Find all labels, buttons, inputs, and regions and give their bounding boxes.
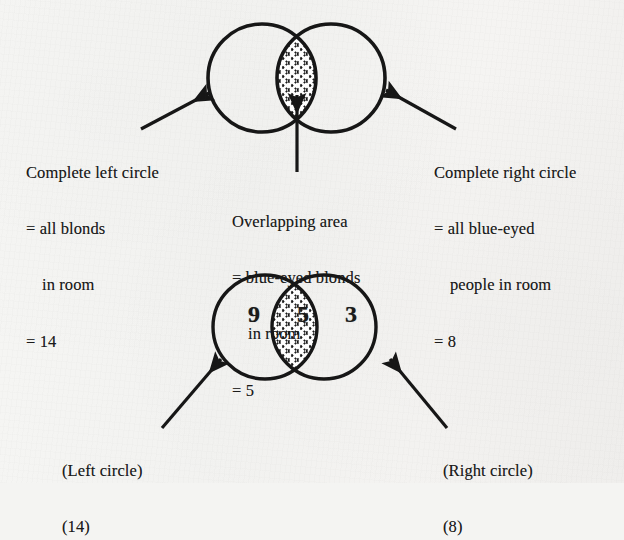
left-caption-line-3: in room <box>26 276 159 295</box>
bottom-left-circle-caption: (Left circle) (14) <box>62 424 143 540</box>
right-caption-line-3: people in room <box>434 276 576 295</box>
overlap-caption-line-4: = 5 <box>232 382 360 401</box>
left-caption-line-4: = 14 <box>26 333 159 352</box>
bottom-left-caption-line-1: (Left circle) <box>62 462 143 481</box>
bottom-left-only-value: 9 <box>248 301 260 328</box>
right-caption-line-1: Complete right circle <box>434 164 576 183</box>
bottom-intersection-value: 5 <box>297 301 309 328</box>
top-right-pointer-arrow <box>386 90 456 129</box>
overlap-caption-line-2: = blue-eyed blonds <box>232 269 360 288</box>
bottom-right-caption-line-1: (Right circle) <box>443 462 533 481</box>
bottom-left-pointer-arrow <box>162 359 221 428</box>
bottom-left-caption-line-2: (14) <box>62 518 143 537</box>
right-caption-line-2: = all blue-eyed <box>434 220 576 239</box>
left-circle-caption: Complete left circle = all blonds in roo… <box>26 126 159 389</box>
left-caption-line-1: Complete left circle <box>26 164 159 183</box>
overlap-caption-line-1: Overlapping area <box>232 213 360 232</box>
overlap-caption-line-3: in room <box>232 325 360 344</box>
bottom-right-caption-line-2: (8) <box>443 518 533 537</box>
right-circle-caption: Complete right circle = all blue-eyed pe… <box>434 126 576 389</box>
left-caption-line-2: = all blonds <box>26 220 159 239</box>
bottom-right-circle-caption: (Right circle) (8) <box>443 424 533 540</box>
bottom-right-only-value: 3 <box>345 301 357 328</box>
right-caption-line-4: = 8 <box>434 333 576 352</box>
top-left-pointer-arrow <box>141 93 209 129</box>
